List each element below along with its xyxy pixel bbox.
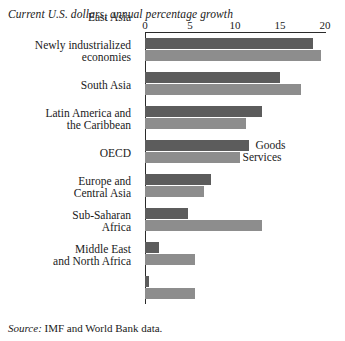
bar-group bbox=[145, 174, 325, 198]
plot-area: GoodsServices bbox=[145, 32, 325, 304]
bar-services bbox=[145, 288, 195, 299]
bar-goods bbox=[145, 106, 262, 117]
x-tick-label-15: 15 bbox=[275, 19, 286, 32]
category-label-6: Sub-SaharanAfrica bbox=[0, 209, 138, 234]
figure-container: Current U.S. dollars, annual percentage … bbox=[0, 0, 345, 341]
category-labels: East AsiaNewly industrializedeconomiesSo… bbox=[0, 0, 138, 272]
legend-label-goods: Goods bbox=[253, 139, 285, 151]
bar-goods bbox=[145, 38, 313, 49]
bar-goods bbox=[145, 140, 249, 151]
bar-services bbox=[145, 118, 246, 129]
category-label-0: East Asia bbox=[0, 11, 138, 24]
category-label-3: Latin America andthe Caribbean bbox=[0, 107, 138, 132]
x-axis-tick-labels: 05101520 bbox=[145, 19, 325, 32]
source-label: Source: bbox=[8, 322, 42, 334]
bar-group bbox=[145, 72, 325, 96]
source-text: IMF and World Bank data. bbox=[45, 322, 163, 334]
category-label-4: OECD bbox=[0, 147, 138, 160]
bar-goods bbox=[145, 174, 211, 185]
bar-group bbox=[145, 242, 325, 266]
bar-services bbox=[145, 220, 262, 231]
x-tick-label-5: 5 bbox=[187, 19, 193, 32]
source-note: Source: IMF and World Bank data. bbox=[8, 322, 162, 334]
bar-group bbox=[145, 38, 325, 62]
x-tick-label-20: 20 bbox=[320, 19, 331, 32]
x-tick-label-10: 10 bbox=[230, 19, 241, 32]
bar-services bbox=[145, 186, 204, 197]
bar-services bbox=[145, 254, 195, 265]
x-tick-label-0: 0 bbox=[142, 19, 148, 32]
legend-label-services: Services bbox=[241, 151, 282, 163]
bar-services bbox=[145, 50, 321, 61]
category-label-7: Middle Eastand North Africa bbox=[0, 243, 138, 268]
bar-group bbox=[145, 208, 325, 232]
bar-goods bbox=[145, 242, 159, 253]
bar-services bbox=[145, 84, 301, 95]
bar-group bbox=[145, 276, 325, 300]
bar-goods bbox=[145, 72, 280, 83]
bar-group bbox=[145, 106, 325, 130]
bar-goods bbox=[145, 276, 149, 287]
bar-group bbox=[145, 140, 325, 164]
category-label-1: Newly industrializedeconomies bbox=[0, 39, 138, 64]
category-label-5: Europe andCentral Asia bbox=[0, 175, 138, 200]
bar-services bbox=[145, 152, 240, 163]
category-label-2: South Asia bbox=[0, 79, 138, 92]
bar-goods bbox=[145, 208, 188, 219]
